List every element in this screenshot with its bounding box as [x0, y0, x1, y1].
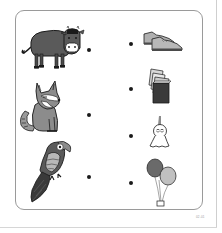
cow-match-dot[interactable] — [87, 48, 91, 52]
parrot-picture — [28, 140, 78, 204]
page-edge-bottom — [0, 227, 217, 228]
cow-picture — [20, 26, 86, 70]
books-picture — [147, 67, 173, 107]
parrot-match-dot[interactable] — [87, 175, 91, 179]
balloons-picture — [144, 158, 182, 208]
wolf-picture — [19, 79, 71, 135]
shoes-picture — [142, 30, 184, 52]
wolf-match-dot[interactable] — [87, 113, 91, 117]
balloons-match-dot[interactable] — [129, 181, 133, 185]
teru-teru-bozu-doll-picture — [147, 116, 173, 152]
page-edge-right — [216, 0, 217, 228]
books-match-dot[interactable] — [129, 87, 133, 91]
shoes-match-dot[interactable] — [129, 42, 133, 46]
page-number: 02-01 — [196, 215, 205, 219]
doll-match-dot[interactable] — [129, 134, 133, 138]
